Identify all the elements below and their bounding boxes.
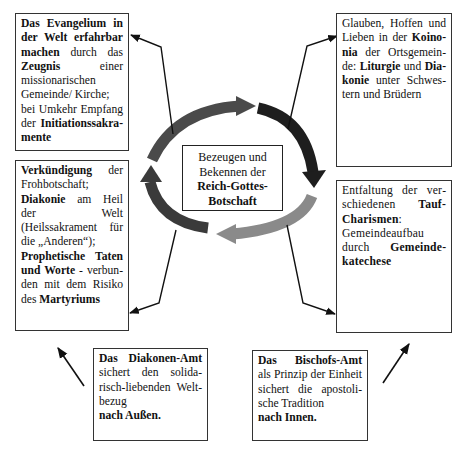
center-line-3: Reich-Gottes-: [185, 179, 280, 194]
center-line-1: Bezeugen und: [185, 150, 280, 165]
center-line-4: Botschaft: [185, 194, 280, 209]
text-segment: und: [400, 60, 424, 73]
text-segment: als Prinzip der Einheit sichert die apos…: [258, 368, 362, 410]
connector-mid-left: [130, 230, 176, 313]
text-segment: Diakonie: [21, 193, 65, 206]
text-segment: nach Außen.: [99, 409, 161, 422]
arrow-bischofs-up: [383, 344, 409, 383]
text-segment: nach Innen.: [258, 411, 317, 424]
text-segment: Liturgie: [360, 60, 401, 73]
connector-top-left: [131, 35, 173, 134]
text-segment: durch das: [60, 46, 123, 59]
box-tauf-charismen: Entfaltung der ver­schiedenen Tauf-Chari…: [336, 180, 452, 333]
box-koinonia: Glauben, Hoffen und Lieben in der Koino­…: [336, 13, 452, 167]
connector-mid-right: [287, 225, 335, 314]
center-box: Bezeugen und Bekennen der Reich-Gottes- …: [182, 145, 283, 211]
box-diakonen-amt: Das Diakonen-Amt sichert den solida­risc…: [93, 348, 208, 441]
text-segment: Das Diakonen-Amt: [99, 352, 202, 365]
connector-top-right: [288, 36, 337, 129]
box-bischofs-amt: Das Bischofs-Amt als Prinzip der Einheit…: [252, 350, 368, 441]
text-segment: Das Bischofs-Amt: [258, 354, 362, 367]
text-segment: Zeugnis: [21, 60, 60, 73]
text-segment: sichert den solida­risch-liebenden Welt­…: [99, 366, 202, 408]
text-segment: Martyriums: [39, 293, 100, 306]
text-segment: Verkündigung: [21, 164, 92, 177]
center-line-2: Bekennen der: [185, 165, 280, 180]
arrow-diakonen-up: [58, 348, 84, 386]
box-verkuendigung: Verkündigung der Frohbotschaft;Diakonie …: [15, 160, 129, 331]
box-evangelium: Das Evangelium in der Welt erfahrbar mac…: [15, 13, 129, 151]
